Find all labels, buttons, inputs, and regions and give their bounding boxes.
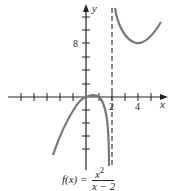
function-graph: y x 8 2 4 [0, 0, 172, 191]
tick-label-4: 4 [135, 101, 140, 112]
y-axis-label: y [91, 2, 97, 14]
tick-label-2: 2 [109, 101, 114, 112]
formula-denominator: x − 2 [92, 180, 115, 191]
formula-numerator: x2 [95, 166, 104, 180]
numerator-exponent: 2 [100, 166, 104, 175]
y-axis [82, 4, 90, 170]
formula-lhs: f(x) = [62, 173, 87, 185]
curve-right-branch [115, 8, 161, 43]
tick-label-8: 8 [73, 38, 78, 49]
function-formula: f(x) = x2 x − 2 [62, 167, 122, 191]
curve-left-branch [53, 95, 109, 166]
x-axis-label: x [159, 98, 165, 110]
y-axis-arrow-icon [83, 4, 89, 12]
